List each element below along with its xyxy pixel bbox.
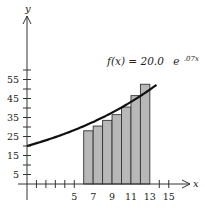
bar: [84, 131, 93, 184]
x-tick-label: 13: [144, 191, 156, 202]
x-tick-label: 5: [71, 191, 77, 202]
bar: [122, 107, 131, 184]
y-tick-label: 25: [7, 131, 19, 142]
y-tick-label: 15: [7, 150, 19, 161]
x-tick-label: 7: [90, 191, 96, 202]
chart-canvas: y x f(x) = 20.0 e .07x 579111315 5152535…: [0, 0, 205, 217]
bar: [93, 126, 102, 184]
bar: [103, 120, 112, 184]
y-tick-label: 55: [7, 74, 19, 85]
formula-base: e: [173, 55, 179, 67]
y-tick-labels: 51525354555: [7, 74, 19, 180]
y-tick-label: 5: [13, 169, 19, 180]
x-tick-label: 15: [163, 191, 175, 202]
bar: [131, 96, 140, 184]
y-tick-label: 35: [7, 112, 19, 123]
function-label: f(x) = 20.0 e .07x: [106, 55, 199, 67]
formula-prefix: f(x) = 20.0: [106, 55, 164, 67]
riemann-bars: [84, 84, 150, 184]
riemann-sum-chart: y x f(x) = 20.0 e .07x 579111315 5152535…: [0, 0, 205, 217]
x-tick-label: 9: [109, 191, 115, 202]
bar: [112, 115, 121, 184]
x-tick-label: 11: [125, 191, 137, 202]
y-tick-label: 45: [7, 93, 19, 104]
x-axis-label: x: [193, 178, 199, 189]
formula-exponent: .07x: [184, 55, 199, 63]
x-tick-labels: 579111315: [71, 191, 175, 202]
bar: [140, 84, 149, 184]
y-axis-label: y: [24, 3, 31, 14]
